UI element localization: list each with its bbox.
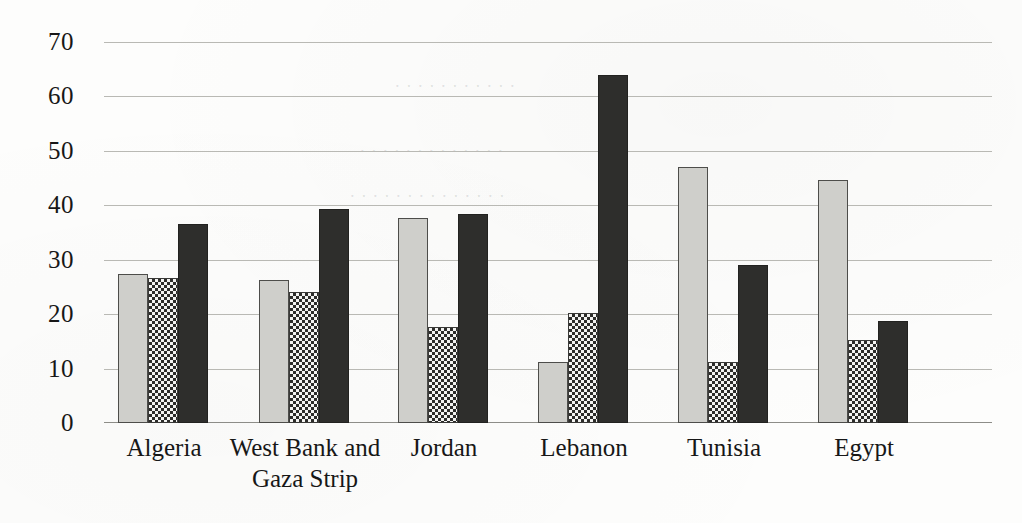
bar — [118, 274, 148, 423]
bar-group — [398, 42, 490, 423]
y-tick-label: 60 — [18, 83, 74, 108]
bar — [738, 265, 768, 423]
bar — [598, 75, 628, 423]
bar — [568, 313, 598, 423]
bar — [178, 224, 208, 423]
x-axis-label: Egypt — [754, 432, 974, 463]
bar — [678, 167, 708, 423]
bar — [848, 340, 878, 423]
x-axis-labels: AlgeriaWest Bank andGaza StripJordanLeba… — [104, 432, 992, 512]
bar — [289, 292, 319, 423]
bar — [708, 362, 738, 424]
bar — [538, 362, 568, 423]
y-tick-label: 40 — [18, 192, 74, 217]
bar — [259, 280, 289, 423]
y-tick-label: 30 — [18, 247, 74, 272]
bar — [428, 327, 458, 423]
bar-group — [678, 42, 770, 423]
plot-area — [104, 42, 992, 423]
y-tick-label: 70 — [18, 29, 74, 54]
bar — [319, 209, 349, 423]
x-axis-label-line: Egypt — [754, 432, 974, 463]
y-tick-label: 20 — [18, 301, 74, 326]
bar-group — [818, 42, 910, 423]
bar — [458, 214, 488, 423]
bar-group — [118, 42, 210, 423]
y-axis: 70 60 50 40 30 20 10 0 — [0, 42, 74, 423]
bar — [818, 180, 848, 423]
bar-group — [259, 42, 351, 423]
x-axis-label-line: Gaza Strip — [195, 463, 415, 494]
bar-chart: . . . . . . . . . . . . . . . . . . . . … — [0, 0, 1022, 523]
bar — [148, 278, 178, 423]
bar — [878, 321, 908, 423]
y-tick-label: 50 — [18, 138, 74, 163]
y-tick-label: 10 — [18, 356, 74, 381]
bar — [398, 218, 428, 423]
bar-group — [538, 42, 630, 423]
